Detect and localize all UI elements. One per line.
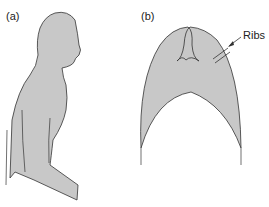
diagram-canvas [0,0,269,207]
ribs-annotation: Ribs [243,29,265,41]
figure: (a) (b) Ribs [0,0,269,207]
panel-a-label: (a) [6,10,19,22]
panel-b-label: (b) [141,10,154,22]
ribcage-front-view [141,27,241,165]
human-silhouette-side-view [6,12,81,200]
